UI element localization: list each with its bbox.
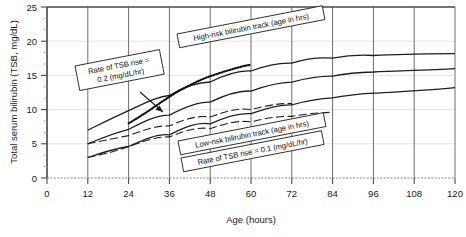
x-tick-label-84: 84 xyxy=(327,188,338,199)
x-tick-label-12: 12 xyxy=(83,188,94,199)
x-tick-label-60: 60 xyxy=(246,188,257,199)
y-tick-label-25: 25 xyxy=(26,2,37,13)
y-tick-label-20: 20 xyxy=(26,36,37,47)
x-tick-label-96: 96 xyxy=(368,188,379,199)
x-tick-label-108: 108 xyxy=(406,188,422,199)
x-major-ticks xyxy=(47,178,455,184)
x-tick-label-0: 0 xyxy=(44,188,49,199)
bilirubin-nomogram-chart: Rate of TSB rise = 0.2 (mg/dL/hr) High-r… xyxy=(0,0,466,237)
y-tick-label-15: 15 xyxy=(26,70,37,81)
x-tick-label-120: 120 xyxy=(447,188,463,199)
y-axis-title: Total serum bilirubin (TSB, mg/dL) xyxy=(8,20,19,164)
y-tick-label-0: 0 xyxy=(32,173,37,184)
x-tick-labels: 0 12 24 36 48 60 72 84 96 108 120 xyxy=(44,188,463,199)
y-tick-label-5: 5 xyxy=(32,138,37,149)
chart-svg: Rate of TSB rise = 0.2 (mg/dL/hr) High-r… xyxy=(0,0,466,237)
annotation-rate-of-tsb-rise-02: Rate of TSB rise = 0.2 (mg/dL/hr) xyxy=(75,50,164,91)
x-tick-label-48: 48 xyxy=(205,188,216,199)
y-major-ticks xyxy=(41,7,47,178)
x-axis-title: Age (hours) xyxy=(226,214,276,225)
x-tick-label-72: 72 xyxy=(287,188,298,199)
x-tick-label-36: 36 xyxy=(164,188,175,199)
y-tick-labels: 25 20 15 10 5 0 xyxy=(26,2,37,184)
x-tick-label-24: 24 xyxy=(123,188,134,199)
y-tick-label-10: 10 xyxy=(26,104,37,115)
